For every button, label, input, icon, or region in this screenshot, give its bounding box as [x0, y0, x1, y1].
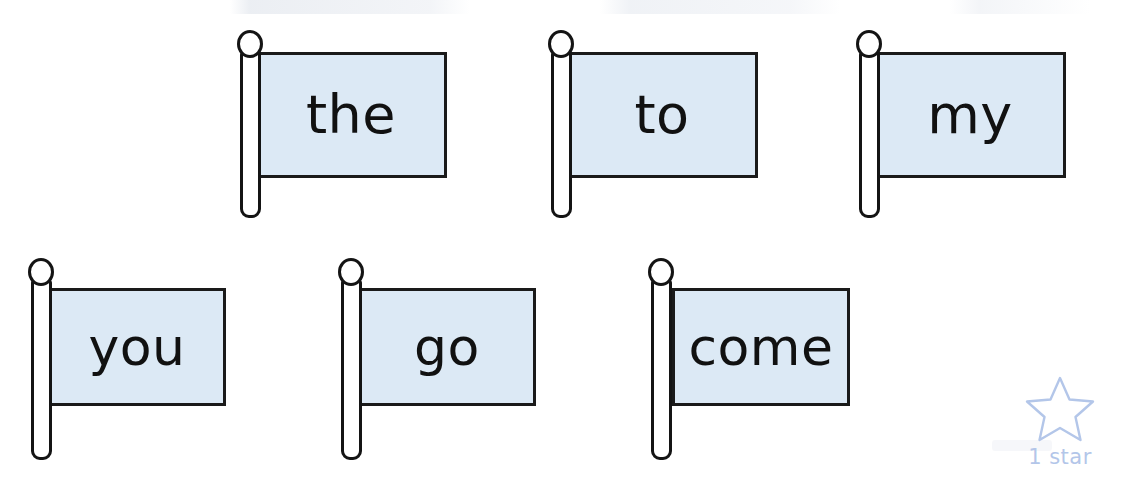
flag-banner[interactable]: my	[874, 52, 1066, 178]
flag-pole-shaft	[341, 280, 362, 460]
flag-banner[interactable]: come	[672, 288, 850, 406]
worksheet-page: thetomyyougocome 1 star	[0, 0, 1140, 479]
flag-pole-shaft	[859, 52, 880, 218]
flag-word-text: you	[88, 321, 185, 373]
flag-word-text: my	[927, 88, 1013, 142]
flag-pole-finial-icon	[856, 30, 882, 58]
star-outline-icon	[1000, 374, 1120, 444]
flag-banner[interactable]: go	[358, 288, 536, 406]
flag-word-text: go	[414, 321, 480, 373]
flag-pole-finial-icon	[338, 258, 364, 286]
flag-word-text: the	[306, 88, 396, 142]
flag-word-text: come	[688, 321, 833, 373]
flag-word-text: to	[634, 88, 689, 142]
flag-pole-finial-icon	[28, 258, 54, 286]
flag-banner[interactable]: the	[255, 52, 447, 178]
flag-pole-shaft	[240, 52, 261, 218]
flag-pole-shaft	[651, 280, 672, 460]
scan-bleed-through-top	[0, 0, 1140, 14]
flag-pole-finial-icon	[548, 30, 574, 58]
flag-pole-shaft	[31, 280, 52, 460]
flag-pole-finial-icon	[237, 30, 263, 58]
flag-banner[interactable]: you	[48, 288, 226, 406]
flag-pole-shaft	[551, 52, 572, 218]
flag-pole-finial-icon	[648, 258, 674, 286]
star-badge: 1 star	[1000, 374, 1120, 469]
flag-banner[interactable]: to	[566, 52, 758, 178]
star-badge-label: 1 star	[1000, 445, 1120, 469]
